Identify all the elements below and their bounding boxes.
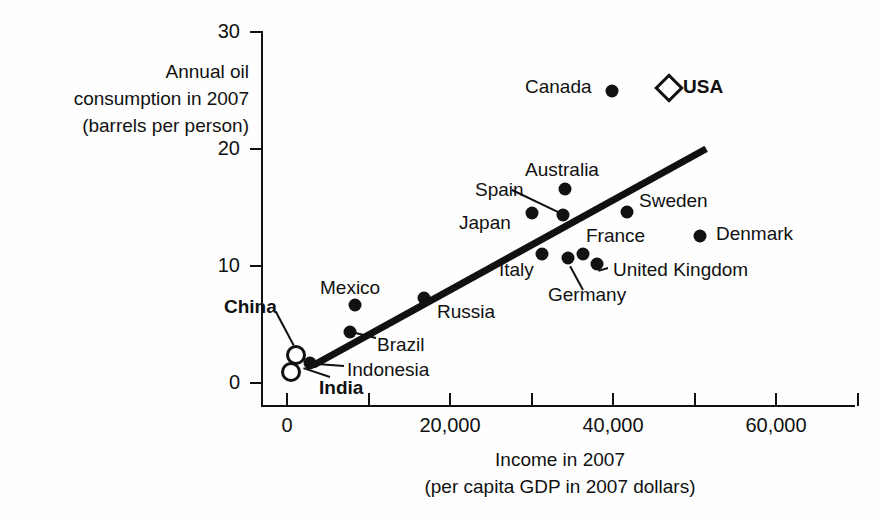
point-label-denmark: Denmark bbox=[716, 223, 793, 244]
point-label-indonesia: Indonesia bbox=[347, 359, 429, 380]
point-label-spain: Spain bbox=[475, 179, 524, 200]
point-label-france: France bbox=[586, 225, 645, 246]
point-label-united-kingdom: United Kingdom bbox=[613, 259, 748, 280]
point-label-australia: Australia bbox=[525, 159, 599, 180]
data-label-layer: ChinaIndiaIndonesiaBrazilMexicoRussiaJap… bbox=[0, 0, 881, 523]
scatter-plot-figure: Annual oil consumption in 2007 (barrels … bbox=[0, 0, 881, 523]
point-label-mexico: Mexico bbox=[320, 277, 380, 298]
data-point-india[interactable] bbox=[281, 362, 301, 382]
point-label-sweden: Sweden bbox=[639, 190, 708, 211]
point-label-china: China bbox=[224, 296, 277, 317]
point-label-germany: Germany bbox=[548, 284, 626, 305]
point-label-brazil: Brazil bbox=[377, 334, 425, 355]
point-label-india: India bbox=[319, 377, 363, 398]
point-label-usa: USA bbox=[683, 76, 723, 97]
point-label-russia: Russia bbox=[437, 301, 495, 322]
point-label-canada: Canada bbox=[525, 76, 592, 97]
point-label-japan: Japan bbox=[459, 212, 511, 233]
